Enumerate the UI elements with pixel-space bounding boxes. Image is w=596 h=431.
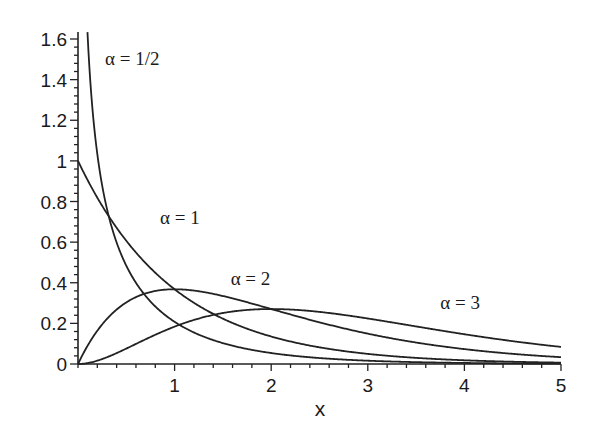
y-tick-label: 0.2 [41,313,67,334]
curve-label: α = 3 [440,292,480,313]
y-tick-label: 1.6 [41,29,67,50]
curve-label: α = 1/2 [105,48,159,69]
curve-alpha-1 [78,161,561,363]
y-tick-label: 0.6 [41,232,67,253]
x-tick-label: 1 [169,375,180,396]
curve-labels: α = 1/2α = 1α = 2α = 3 [105,48,480,313]
curves [78,32,561,364]
y-tick-label: 1.4 [41,70,68,91]
x-tick-label: 2 [266,375,277,396]
y-tick-label: 0.8 [41,192,67,213]
gamma-density-chart: 12345x00.20.40.60.811.21.41.6 α = 1/2α =… [0,0,596,431]
x-axis-label: x [315,397,326,420]
y-tick-label: 0.4 [41,273,68,294]
y-tick-label: 0 [56,354,67,375]
y-tick-label: 1.2 [41,110,67,131]
x-tick-label: 4 [459,375,470,396]
y-tick-label: 1 [56,151,67,172]
curve-alpha-3 [78,309,561,364]
x-tick-label: 5 [556,375,567,396]
curve-label: α = 1 [160,207,200,228]
curve-alpha-0-5 [87,32,560,364]
curve-label: α = 2 [231,268,271,289]
x-tick-label: 3 [363,375,374,396]
